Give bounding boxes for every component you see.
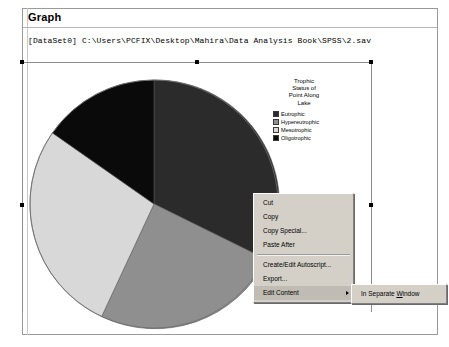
context-menu[interactable]: Cut Copy Copy Special... Paste After Cre… [253,193,354,303]
selection-edge-right [371,62,372,312]
menu-item-edit-content[interactable]: Edit Content [254,286,353,300]
menu-item-copy-special[interactable]: Copy Special... [254,224,353,238]
selection-handle-top-left[interactable] [20,60,24,64]
menu-item-export[interactable]: Export... [254,272,353,286]
dataset-path-text: [DataSet0] C:\Users\PCFIX\Desktop\Mahira… [28,36,371,45]
context-submenu[interactable]: In Separate Window [351,284,447,304]
menu-separator [257,254,350,256]
selection-handle-middle-left[interactable] [20,203,24,207]
menu-item-in-separate-window[interactable]: In Separate Window [352,287,446,301]
menu-item-paste-after[interactable]: Paste After [254,238,353,252]
title-underline [23,27,437,28]
submenu-label-before: In Separate [361,290,396,297]
menu-item-create-edit-autoscript[interactable]: Create/Edit Autoscript... [254,258,353,272]
selection-handle-top-center[interactable] [195,60,199,64]
selection-handle-middle-right[interactable] [369,203,373,207]
selection-edge-left [22,62,23,312]
menu-item-edit-content-label: Edit Content [263,289,299,296]
submenu-label-after: indow [403,290,420,297]
page-title: Graph [28,11,61,23]
menu-item-cut[interactable]: Cut [254,196,353,210]
selection-handle-top-right[interactable] [369,60,373,64]
menu-item-copy[interactable]: Copy [254,210,353,224]
chevron-right-icon [346,291,349,295]
